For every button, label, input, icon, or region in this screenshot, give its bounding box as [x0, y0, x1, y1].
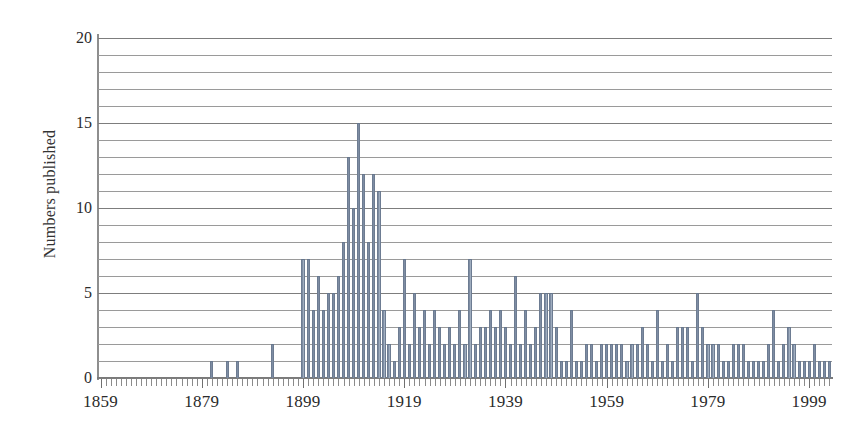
bar	[301, 259, 304, 378]
x-minor-tick	[754, 379, 755, 386]
x-minor-tick	[475, 379, 476, 386]
bar	[706, 344, 709, 378]
x-minor-tick	[192, 379, 193, 386]
bar	[362, 174, 365, 378]
x-minor-tick	[445, 379, 446, 386]
bar	[322, 310, 325, 378]
x-minor-tick	[298, 379, 299, 386]
x-minor-tick	[338, 379, 339, 386]
bar	[494, 327, 497, 378]
x-minor-tick	[227, 379, 228, 386]
bar	[393, 361, 396, 378]
bar	[317, 276, 320, 378]
bar	[549, 293, 552, 378]
bar	[580, 361, 583, 378]
bar	[777, 361, 780, 378]
bar	[717, 344, 720, 378]
x-minor-tick	[207, 379, 208, 386]
x-minor-tick	[414, 379, 415, 386]
x-minor-tick	[389, 379, 390, 386]
x-minor-tick	[156, 379, 157, 386]
bar	[479, 327, 482, 378]
x-minor-tick	[500, 379, 501, 386]
bar	[605, 344, 608, 378]
x-minor-tick	[354, 379, 355, 386]
x-minor-tick	[344, 379, 345, 386]
x-major-tick	[303, 379, 304, 388]
x-minor-tick	[764, 379, 765, 386]
x-minor-tick	[197, 379, 198, 386]
bar	[458, 310, 461, 378]
bar	[468, 259, 471, 378]
x-minor-tick	[131, 379, 132, 386]
bar	[210, 361, 213, 378]
x-tick-label: 1999	[764, 392, 854, 412]
x-axis-ticks	[98, 379, 832, 388]
x-minor-tick	[743, 379, 744, 386]
bar	[656, 310, 659, 378]
x-minor-tick	[257, 379, 258, 386]
x-minor-tick	[804, 379, 805, 386]
bar	[681, 327, 684, 378]
x-minor-tick	[141, 379, 142, 386]
bar	[620, 344, 623, 378]
x-minor-tick	[602, 379, 603, 386]
x-minor-tick	[824, 379, 825, 386]
x-axis-tick-labels: 18591879189919191939195919791999	[0, 392, 864, 422]
bar	[352, 208, 355, 378]
bar	[428, 344, 431, 378]
bar	[737, 344, 740, 378]
bar	[651, 361, 654, 378]
x-minor-tick	[450, 379, 451, 386]
x-minor-tick	[521, 379, 522, 386]
x-minor-tick	[455, 379, 456, 386]
x-minor-tick	[673, 379, 674, 386]
x-minor-tick	[713, 379, 714, 386]
x-tick-label: 1939	[460, 392, 550, 412]
x-minor-tick	[779, 379, 780, 386]
x-minor-tick	[480, 379, 481, 386]
bar	[798, 361, 801, 378]
x-minor-tick	[612, 379, 613, 386]
bar	[514, 276, 517, 378]
x-major-tick	[404, 379, 405, 388]
bar	[499, 310, 502, 378]
bar	[327, 293, 330, 378]
bar	[539, 293, 542, 378]
x-minor-tick	[293, 379, 294, 386]
x-minor-tick	[571, 379, 572, 386]
x-minor-tick	[237, 379, 238, 386]
bar	[636, 344, 639, 378]
bar	[686, 327, 689, 378]
x-minor-tick	[526, 379, 527, 386]
x-minor-tick	[703, 379, 704, 386]
bar	[575, 361, 578, 378]
x-minor-tick	[516, 379, 517, 386]
bar	[423, 310, 426, 378]
x-minor-tick	[592, 379, 593, 386]
x-minor-tick	[333, 379, 334, 386]
x-minor-tick	[759, 379, 760, 386]
y-tick-label: 15	[52, 115, 92, 131]
bar	[433, 310, 436, 378]
x-minor-tick	[374, 379, 375, 386]
bar	[347, 157, 350, 378]
bar	[757, 361, 760, 378]
y-tick-label: 10	[52, 200, 92, 216]
x-minor-tick	[819, 379, 820, 386]
x-minor-tick	[576, 379, 577, 386]
bar	[382, 310, 385, 378]
x-minor-tick	[116, 379, 117, 386]
bar	[408, 344, 411, 378]
x-minor-tick	[435, 379, 436, 386]
x-minor-tick	[288, 379, 289, 386]
bar	[590, 344, 593, 378]
x-minor-tick	[678, 379, 679, 386]
x-minor-tick	[318, 379, 319, 386]
x-tick-label: 1919	[359, 392, 449, 412]
x-minor-tick	[146, 379, 147, 386]
x-minor-tick	[561, 379, 562, 386]
x-major-tick	[505, 379, 506, 388]
x-minor-tick	[586, 379, 587, 386]
bar	[742, 344, 745, 378]
